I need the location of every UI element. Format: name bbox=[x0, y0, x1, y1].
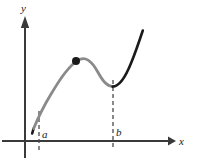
curve-segment-gray bbox=[34, 59, 113, 129]
label-b: b bbox=[116, 126, 122, 138]
function-graph-figure: y x a b bbox=[0, 0, 201, 162]
y-axis-label: y bbox=[20, 2, 26, 14]
graph-svg: y x a b bbox=[0, 0, 201, 162]
x-axis-label: x bbox=[178, 135, 184, 147]
local-maximum-dot bbox=[72, 57, 80, 65]
label-a: a bbox=[42, 128, 48, 140]
y-axis-arrow-icon bbox=[21, 16, 29, 28]
x-axis-arrow-icon bbox=[168, 137, 176, 146]
curve-segment-black-right bbox=[113, 31, 143, 87]
